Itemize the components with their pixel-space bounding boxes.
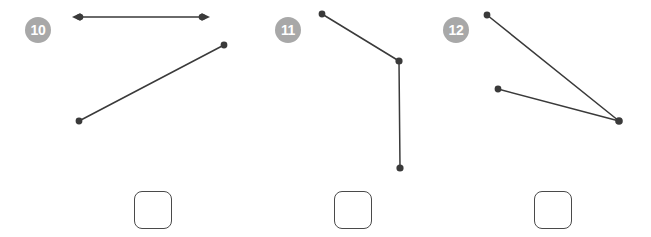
- point-c: [76, 118, 83, 125]
- angle-shape: [484, 12, 623, 125]
- point-b: [199, 14, 206, 21]
- geometry-figure-10: [0, 0, 217, 185]
- point-lower-left: [495, 86, 502, 93]
- point-upper-left: [484, 12, 491, 19]
- point-vertex: [395, 57, 402, 64]
- geometry-figure-12: [434, 0, 651, 185]
- answer-box-12[interactable]: [534, 191, 572, 229]
- worksheet-canvas: 10 11: [0, 0, 651, 237]
- segment-upper: [322, 14, 399, 61]
- segment-upper-ray: [487, 15, 619, 121]
- point-vertex-right: [615, 117, 623, 125]
- line-with-double-arrow: [72, 13, 210, 21]
- answer-box-11[interactable]: [334, 191, 372, 229]
- bent-path: [319, 11, 404, 172]
- problem-12: 12: [434, 0, 651, 237]
- point-a: [77, 14, 84, 21]
- geometry-figure-11: [217, 0, 434, 185]
- segment-body: [79, 45, 224, 121]
- answer-box-10[interactable]: [134, 191, 172, 229]
- problem-11: 11: [217, 0, 434, 237]
- problem-10: 10: [0, 0, 217, 237]
- segment-lower: [399, 61, 400, 168]
- point-endpoint-bottom: [396, 164, 403, 171]
- point-endpoint-top: [319, 11, 326, 18]
- segment-lower-ray: [498, 89, 619, 121]
- line-segment: [76, 42, 228, 125]
